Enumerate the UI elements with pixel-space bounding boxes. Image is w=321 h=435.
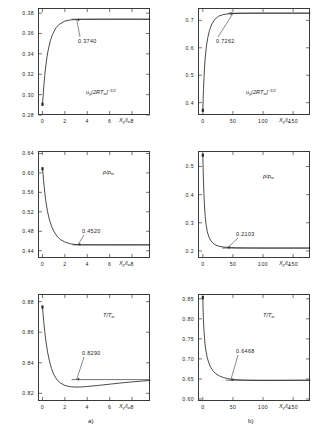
data-curve	[203, 298, 310, 381]
x-axis-tick-label: 2	[53, 404, 77, 410]
panel-a-top: uy(2RTw)−1/2 Xy/lw 0.3740 0.280.300.320.…	[0, 0, 161, 140]
y-axis-tick-label: 0.4	[160, 100, 194, 106]
ylabel-b-middle: ρ/ρw	[263, 173, 274, 180]
x-axis-tick-label: 0	[30, 118, 54, 124]
annotation-leader-line	[218, 13, 233, 37]
y-axis-tick-label: 0.52	[0, 209, 34, 215]
annotation-leader-line	[77, 19, 80, 37]
panel-b-bottom: T/Tw Xy/lw 0.6468 b) 0.600.650.700.750.8…	[160, 286, 321, 435]
y-axis-tick-label: 0.38	[0, 10, 34, 16]
ylabel-b-top: uy(2RTw)−1/2	[246, 89, 276, 96]
x-axis-tick-label: 4	[75, 404, 99, 410]
y-axis-tick-label: 0.6	[160, 45, 194, 51]
y-axis-tick-label: 0.3	[160, 220, 194, 226]
y-axis-tick-label: 0.5	[160, 72, 194, 78]
y-axis-tick-label: 0.85	[160, 296, 194, 302]
x-axis-tick-label: 0	[191, 118, 215, 124]
x-axis-tick-label: 100	[251, 118, 275, 124]
y-axis-tick-label: 0.80	[160, 316, 194, 322]
annotation-value-b-top: 0.7262	[216, 38, 235, 44]
origin-marker	[41, 167, 43, 170]
y-axis-tick-label: 0.34	[0, 51, 34, 57]
x-axis-tick-label: 0	[191, 261, 215, 267]
x-axis-tick-label: 2	[53, 118, 77, 124]
y-axis-tick-label: 0.60	[0, 170, 34, 176]
annotation-leader-line	[227, 238, 238, 248]
annotation-value-a-bottom: 0.8290	[82, 350, 101, 356]
x-axis-tick-label: 4	[75, 261, 99, 267]
x-axis-tick-label: 50	[221, 404, 245, 410]
x-axis-tick-label: 8	[120, 404, 144, 410]
x-axis-tick-label: 100	[251, 261, 275, 267]
panel-b-top: uy(2RTw)−1/2 Xy/lw 0.7262 0.40.50.60.705…	[160, 0, 321, 140]
x-axis-tick-label: 0	[30, 404, 54, 410]
y-axis-tick-label: 0.86	[0, 329, 34, 335]
data-curve	[42, 307, 150, 387]
annotation-leader-line	[78, 235, 84, 245]
x-axis-tick-label: 6	[98, 261, 122, 267]
ylabel-a-middle: ρ/ρw	[103, 169, 114, 176]
panel-a-middle: ρ/ρw Xy/lw 0.4520 0.440.480.520.560.600.…	[0, 143, 161, 283]
y-axis-tick-label: 0.75	[160, 336, 194, 342]
x-axis-tick-label: 150	[281, 404, 305, 410]
y-axis-tick-label: 0.56	[0, 189, 34, 195]
x-axis-tick-label: 4	[75, 118, 99, 124]
annotation-value-b-middle: 0.2103	[236, 231, 255, 237]
subfigure-caption-a: a)	[88, 417, 94, 424]
y-axis-tick-label: 0.44	[0, 248, 34, 254]
x-axis-tick-label: 150	[281, 261, 305, 267]
annotation-leader-line	[231, 355, 238, 380]
origin-marker	[202, 154, 204, 157]
annotation-value-a-top: 0.3740	[78, 38, 97, 44]
x-axis-tick-label: 8	[120, 261, 144, 267]
x-axis-tick-label: 100	[251, 404, 275, 410]
ylabel-b-bottom: T/Tw	[263, 312, 274, 319]
figure-container: uy(2RTw)−1/2 Xy/lw 0.3740 0.280.300.320.…	[0, 0, 321, 435]
y-axis-tick-label: 0.64	[0, 150, 34, 156]
subfigure-caption-b: b)	[248, 417, 254, 424]
x-axis-tick-label: 0	[30, 261, 54, 267]
x-axis-tick-label: 2	[53, 261, 77, 267]
x-axis-tick-label: 50	[221, 118, 245, 124]
y-axis-tick-label: 0.5	[160, 163, 194, 169]
y-axis-tick-label: 0.48	[0, 228, 34, 234]
y-axis-tick-label: 0.60	[160, 396, 194, 402]
y-axis-tick-label: 0.84	[0, 360, 34, 366]
data-curve	[203, 155, 310, 248]
origin-marker	[202, 296, 204, 299]
ylabel-a-top: uy(2RTw)−1/2	[86, 89, 116, 96]
annotation-leader-line	[77, 357, 84, 380]
annotation-value-b-bottom: 0.6468	[236, 348, 255, 354]
origin-marker	[41, 103, 43, 106]
y-axis-tick-label: 0.4	[160, 192, 194, 198]
y-axis-tick-label: 0.7	[160, 17, 194, 23]
ylabel-a-bottom: T/Tw	[103, 312, 114, 319]
x-axis-tick-label: 0	[191, 404, 215, 410]
panel-a-bottom: T/Tw Xy/lw 0.8290 a) 0.820.840.860.88024…	[0, 286, 161, 435]
x-axis-tick-label: 50	[221, 261, 245, 267]
y-axis-tick-label: 0.70	[160, 356, 194, 362]
x-axis-tick-label: 6	[98, 404, 122, 410]
y-axis-tick-label: 0.28	[0, 112, 34, 118]
origin-marker	[41, 305, 43, 308]
y-axis-tick-label: 0.88	[0, 299, 34, 305]
panel-b-middle: ρ/ρw Xy/lw 0.2103 0.20.30.40.5050100150	[160, 143, 321, 283]
y-axis-tick-label: 0.36	[0, 30, 34, 36]
x-axis-tick-label: 6	[98, 118, 122, 124]
y-axis-tick-label: 0.65	[160, 376, 194, 382]
x-axis-tick-label: 8	[120, 118, 144, 124]
y-axis-tick-label: 0.82	[0, 390, 34, 396]
x-axis-tick-label: 150	[281, 118, 305, 124]
origin-marker	[202, 109, 204, 112]
y-axis-tick-label: 0.30	[0, 92, 34, 98]
y-axis-tick-label: 0.2	[160, 248, 194, 254]
y-axis-tick-label: 0.32	[0, 71, 34, 77]
annotation-value-a-middle: 0.4520	[82, 228, 101, 234]
